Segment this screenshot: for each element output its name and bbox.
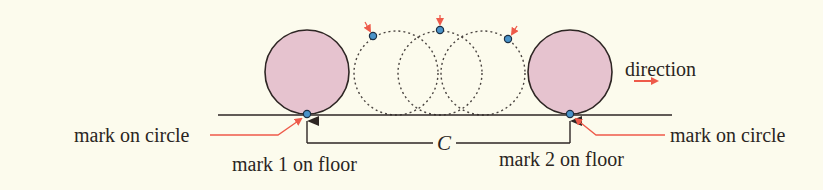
diagram-canvas: C mark on circle mark on circle mark 1 o… <box>0 0 823 190</box>
mark-on-circle-left-label: mark on circle <box>74 124 190 146</box>
leader-line-left <box>210 119 301 135</box>
start-circle <box>265 30 349 114</box>
intermediate-circle-3 <box>441 31 525 115</box>
direction-label: direction <box>625 58 696 80</box>
mark-dot-intermediate-3 <box>504 35 511 42</box>
leader-line-right <box>576 119 665 135</box>
mark-dot-start <box>303 110 310 117</box>
mark-dot-end <box>566 110 573 117</box>
intermediate-circles <box>354 31 525 115</box>
mark-2-floor-label: mark 2 on floor <box>499 148 624 170</box>
mark-dot-intermediate-1 <box>369 32 376 39</box>
mark-dot-intermediate-2 <box>436 26 443 33</box>
rolling-circle-diagram: C mark on circle mark on circle mark 1 o… <box>0 0 823 190</box>
mark-1-floor-label: mark 1 on floor <box>232 153 357 175</box>
end-circle <box>528 30 612 114</box>
intermediate-circle-2 <box>398 31 482 115</box>
intermediate-circle-1 <box>354 31 438 115</box>
mark-on-circle-right-label: mark on circle <box>670 124 786 146</box>
circumference-label: C <box>437 131 452 155</box>
